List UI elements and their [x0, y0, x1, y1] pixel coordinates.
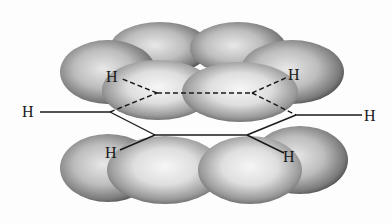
upper-lobes-front — [102, 60, 298, 122]
hydrogen-label-front-right: H — [283, 148, 295, 165]
hydrogen-label-back-right: H — [288, 66, 300, 83]
hydrogen-label-right: H — [364, 107, 376, 124]
lower-lobes-front — [107, 136, 302, 204]
hydrogen-label-front-left: H — [105, 144, 117, 161]
hydrogen-label-left: H — [22, 103, 34, 120]
benzene-orbital-diagram: H H H H H H — [0, 0, 392, 224]
hydrogen-label-back-left: H — [106, 68, 118, 85]
